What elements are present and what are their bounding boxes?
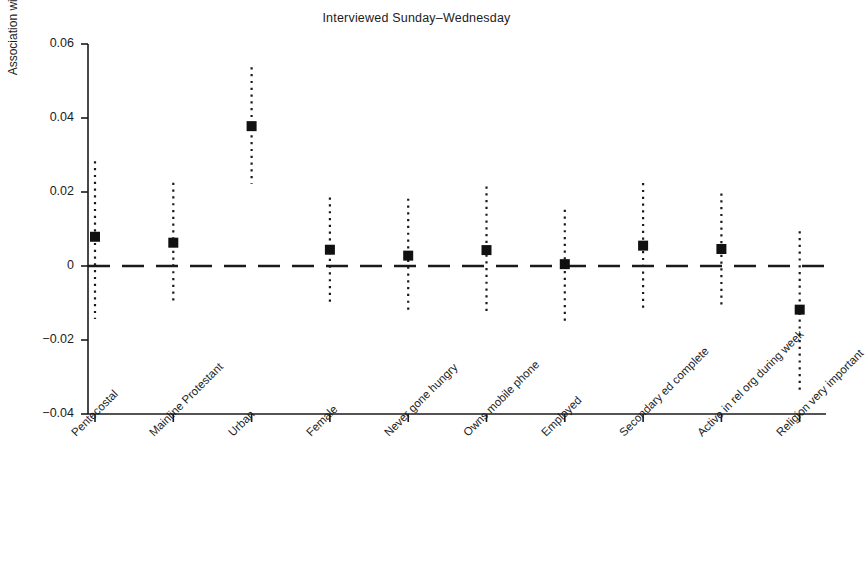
point-marker <box>403 251 413 261</box>
data-point-group <box>168 183 178 303</box>
data-point-group <box>795 231 805 391</box>
axes-layer <box>81 44 826 422</box>
point-marker <box>482 245 492 255</box>
point-marker <box>560 259 570 269</box>
data-point-group <box>90 161 100 319</box>
point-marker <box>90 232 100 242</box>
point-marker <box>168 238 178 248</box>
data-point-group <box>247 67 257 184</box>
point-marker <box>325 245 335 255</box>
data-point-group <box>638 183 648 312</box>
point-marker <box>716 244 726 254</box>
data-point-group <box>560 210 570 322</box>
data-point-group <box>482 186 492 314</box>
point-marker <box>247 121 257 131</box>
point-marker <box>638 241 648 251</box>
point-marker <box>795 305 805 315</box>
data-point-group <box>325 198 335 307</box>
data-point-group <box>403 199 413 310</box>
data-point-group <box>716 193 726 304</box>
data-series-layer <box>90 67 805 391</box>
